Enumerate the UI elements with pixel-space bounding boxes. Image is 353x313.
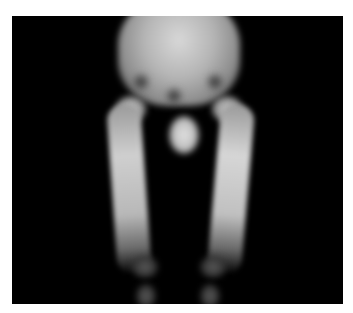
tibia-right [200, 284, 220, 304]
bladder-uptake [169, 116, 199, 154]
bone-scan-image [12, 16, 343, 304]
pelvis-foramen-right [206, 71, 224, 93]
knee-right [200, 256, 226, 278]
knee-left [132, 256, 158, 278]
pelvis-foramen-left [132, 71, 150, 93]
sacral-region [164, 86, 184, 106]
tibia-left [136, 284, 156, 304]
femur-left [106, 103, 152, 275]
femur-right [207, 103, 256, 275]
